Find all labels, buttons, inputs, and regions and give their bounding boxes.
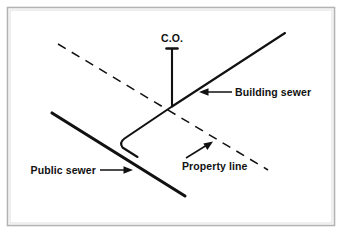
diagram-container: C.O. Building sewer Public sewer Propert… xyxy=(0,0,342,233)
public-sewer-label: Public sewer xyxy=(31,164,96,176)
property-line-label: Property line xyxy=(182,160,248,172)
sewer-connection-diagram: C.O. Building sewer Public sewer Propert… xyxy=(0,0,342,233)
building-sewer-label: Building sewer xyxy=(235,86,311,98)
cleanout-label: C.O. xyxy=(161,32,183,44)
